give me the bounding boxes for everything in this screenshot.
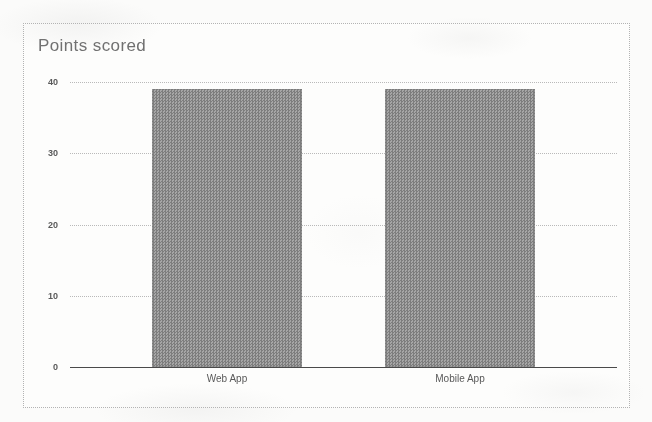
ytick-label-0: 0 <box>28 362 58 372</box>
ytick-label-10: 10 <box>28 291 58 301</box>
ytick-label-40: 40 <box>28 77 58 87</box>
gridline-40 <box>70 82 617 83</box>
category-label-mobile-app: Mobile App <box>435 373 484 384</box>
plot-area <box>70 82 617 367</box>
chart-title: Points scored <box>38 36 146 56</box>
category-label-web-app: Web App <box>207 373 247 384</box>
chart-screenshot: Points scored 40 30 20 10 0 Web App Mobi… <box>0 0 652 422</box>
ytick-label-20: 20 <box>28 220 58 230</box>
bar-web-app <box>152 89 302 367</box>
ytick-label-30: 30 <box>28 148 58 158</box>
scan-blur-wrapper: Points scored 40 30 20 10 0 Web App Mobi… <box>0 0 652 422</box>
bar-mobile-app <box>385 89 535 367</box>
x-axis-line <box>70 367 617 368</box>
